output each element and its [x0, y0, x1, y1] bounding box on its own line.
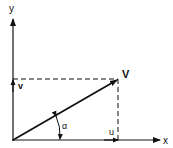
u-component-label: u: [109, 127, 114, 137]
angle-label: α: [62, 121, 67, 131]
vector-label: V: [122, 68, 130, 80]
vector-components-diagram: y x V v u α: [0, 0, 173, 148]
y-axis-label: y: [9, 3, 14, 14]
v-component-label: v: [18, 81, 23, 91]
vector-v: [13, 80, 117, 140]
x-axis-label: x: [163, 135, 168, 146]
angle-arc: [56, 116, 60, 139]
